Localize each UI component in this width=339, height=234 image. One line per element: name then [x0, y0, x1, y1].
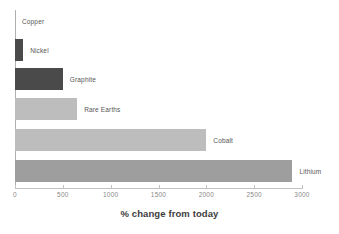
bar-lithium [15, 160, 292, 182]
x-axis-tick [111, 185, 112, 189]
bar-graphite [15, 68, 63, 90]
bar-label-lithium: Lithium [299, 168, 321, 175]
x-axis-tick [15, 185, 16, 189]
bar-label-copper: Copper [22, 18, 44, 25]
x-axis-tick [206, 185, 207, 189]
x-axis-tick [159, 185, 160, 189]
x-axis-tick-label: 0 [13, 191, 17, 198]
bar-label-graphite: Graphite [70, 76, 96, 83]
x-axis-tick-label: 1000 [103, 191, 118, 198]
bar-label-nickel: Nickel [30, 47, 49, 54]
x-axis-tick [254, 185, 255, 189]
x-axis-tick [302, 185, 303, 189]
plot-area: Copper Nickel Graphite Rare Earths Cobal… [15, 10, 302, 188]
bar-label-cobalt: Cobalt [213, 137, 233, 144]
x-axis-tick [63, 185, 64, 189]
x-axis-tick-label: 1500 [151, 191, 166, 198]
bar-cobalt [15, 129, 206, 151]
x-axis-tick-label: 3000 [294, 191, 309, 198]
bar-rare-earths [15, 98, 77, 120]
bar-nickel [15, 39, 23, 61]
x-axis-title: % change from today [0, 208, 339, 219]
bar-label-rare-earths: Rare Earths [84, 106, 120, 113]
x-axis-tick-label: 500 [57, 191, 68, 198]
x-axis-tick-label: 2000 [199, 191, 214, 198]
x-axis-tick-label: 2500 [247, 191, 262, 198]
bar-chart: Copper Nickel Graphite Rare Earths Cobal… [0, 0, 339, 234]
